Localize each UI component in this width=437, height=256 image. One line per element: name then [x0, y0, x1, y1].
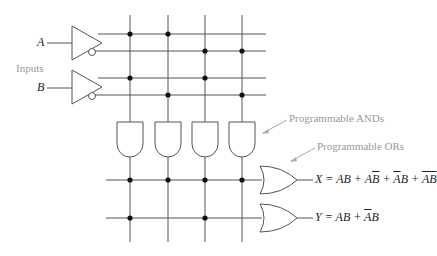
inverter-bubble-a-icon [89, 49, 96, 56]
and-gate-2-icon [155, 122, 181, 157]
equation-y: Y = AB + AB [315, 210, 379, 225]
or-gate-y-icon [260, 204, 297, 232]
input-b-label: B [37, 80, 44, 95]
and-gate-1-icon [117, 122, 143, 157]
input-a-label: A [37, 35, 44, 50]
and-gate-3-icon [192, 122, 218, 157]
and-gate-4-icon [229, 122, 255, 157]
programmable-ands-label: Programmable ANDs [289, 112, 384, 124]
inverter-bubble-b-icon [89, 93, 96, 100]
inputs-label: Inputs [16, 62, 44, 74]
buffer-a-icon [72, 26, 102, 60]
connection-dots [127, 31, 244, 220]
equation-x: X = AB + AB + AB + AB [315, 172, 437, 187]
buffer-b-icon [72, 70, 102, 104]
or-gate-x-icon [260, 166, 297, 194]
programmable-ors-label: Programmable ORs [317, 140, 404, 152]
